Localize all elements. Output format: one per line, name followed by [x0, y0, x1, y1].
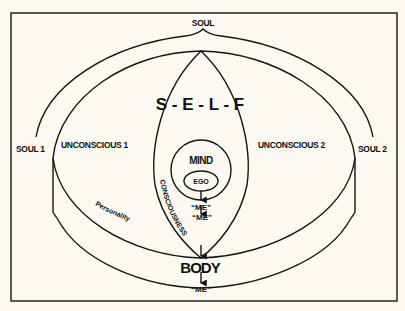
body-curve: [57, 218, 351, 288]
soul1-label: SOUL 1: [16, 144, 45, 154]
personality-textpath: Personality: [94, 200, 131, 223]
ego-label: EGO: [193, 178, 209, 185]
self-title: S - E - L - F: [156, 95, 244, 114]
soul-arc: [36, 29, 373, 137]
me-mind-label: “ME”: [191, 203, 211, 212]
personality-label: Personality: [94, 200, 131, 223]
unconscious1-label: UNCONSCIOUS 1: [61, 140, 129, 150]
soul-label: SOUL: [192, 18, 215, 28]
soul2-label: SOUL 2: [358, 144, 387, 154]
self-diagram: SOUL SOUL 1 SOUL 2 S - E - L - F UNCONSC…: [0, 0, 405, 311]
me-middle-label-visible: “ME”: [192, 213, 212, 222]
mind-label: MIND: [189, 155, 213, 166]
me-body-label: “ME”: [191, 285, 211, 294]
body-label: BODY: [180, 259, 220, 276]
unconscious2-label: UNCONSCIOUS 2: [258, 140, 326, 150]
